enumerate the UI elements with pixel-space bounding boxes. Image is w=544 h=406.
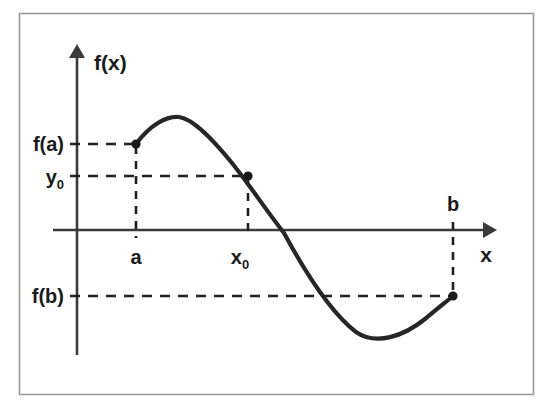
intermediate-value-theorem-figure: f(x) x f(a) y0 f(b) a x0 b [0,0,544,406]
x-tick-label-b: b [447,193,459,215]
function-curve [136,117,453,339]
x-tick-label-x-zero: x0 [231,246,249,272]
y-tick-label-f-of-a: f(a) [33,133,64,155]
axes-group [53,44,497,355]
x-axis-arrow-icon [483,222,497,238]
point-markers-group [131,139,457,300]
figure-container: f(x) x f(a) y0 f(b) a x0 b [0,0,544,406]
guide-lines-group [70,144,455,296]
point-b-marker [448,291,457,300]
y-axis-label: f(x) [94,51,127,74]
y-tick-label-y-zero: y0 [46,166,64,192]
x-tick-label-a: a [130,246,142,268]
x-axis-label: x [480,243,492,266]
x-zero-subscript: 0 [242,257,249,272]
point-x-zero-marker [243,171,252,180]
labels-group: f(x) x f(a) y0 f(b) a x0 b [32,51,492,307]
y-zero-subscript: 0 [57,177,64,192]
point-a-marker [131,139,140,148]
x-zero-base: x [231,246,242,268]
y-axis-arrow-icon [69,44,85,58]
y-tick-label-f-of-b: f(b) [32,285,64,307]
